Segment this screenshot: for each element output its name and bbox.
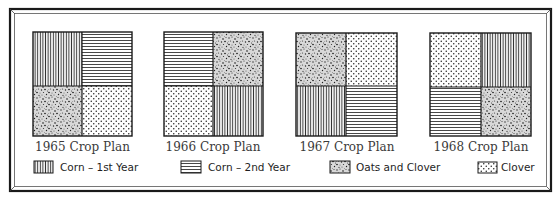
crop-plan-1967: 1967 Crop Plan	[296, 33, 397, 154]
horizontal-lines-swatch-icon	[181, 161, 201, 173]
dots-swatch-icon	[478, 162, 497, 173]
quadrant-corn-1st-year	[296, 86, 346, 136]
quadrant-oats-and-clover	[481, 87, 531, 136]
svg-text:Clover: Clover	[501, 161, 535, 173]
quadrant-oats-and-clover	[33, 86, 82, 136]
plan-label: 1968 Crop Plan	[434, 140, 529, 154]
quadrant-clover	[430, 33, 481, 87]
svg-text:Oats and Clover: Oats and Clover	[356, 161, 441, 173]
quadrant-clover	[82, 86, 132, 136]
quadrant-corn-2nd-year	[430, 87, 481, 136]
crop-plan-1968: 1968 Crop Plan	[430, 33, 531, 154]
stipple-swatch-icon	[330, 161, 350, 173]
crop-plan-1966: 1966 Crop Plan	[164, 32, 263, 154]
quadrant-corn-1st-year	[481, 33, 531, 87]
svg-text:Corn – 2nd Year: Corn – 2nd Year	[208, 161, 291, 173]
legend-item-corn-2nd-year: Corn – 2nd Year	[181, 161, 291, 173]
quadrant-corn-1st-year	[213, 86, 263, 136]
quadrant-clover	[346, 33, 397, 86]
svg-text:Corn – 1st Year: Corn – 1st Year	[60, 161, 139, 173]
quadrant-clover	[164, 86, 213, 136]
legend-item-oats-and-clover: Oats and Clover	[330, 161, 441, 173]
legend-item-corn-1st-year: Corn – 1st Year	[34, 161, 139, 173]
plan-label: 1965 Crop Plan	[35, 140, 130, 154]
quadrant-oats-and-clover	[213, 32, 263, 86]
quadrant-corn-2nd-year	[346, 86, 397, 136]
plan-label: 1967 Crop Plan	[300, 140, 395, 154]
quadrant-corn-2nd-year	[82, 32, 132, 86]
quadrant-corn-1st-year	[33, 32, 82, 86]
legend: Corn – 1st Year Corn – 2nd Year Oats and…	[34, 161, 535, 173]
quadrant-oats-and-clover	[296, 33, 346, 86]
crop-plan-1965: 1965 Crop Plan	[33, 32, 132, 154]
quadrant-corn-2nd-year	[164, 32, 213, 86]
crop-rotation-diagram: 1965 Crop Plan 1966 Crop Plan 1967 Crop …	[0, 0, 560, 199]
legend-item-clover: Clover	[478, 161, 535, 173]
plan-label: 1966 Crop Plan	[166, 140, 261, 154]
vertical-lines-swatch-icon	[34, 161, 53, 173]
